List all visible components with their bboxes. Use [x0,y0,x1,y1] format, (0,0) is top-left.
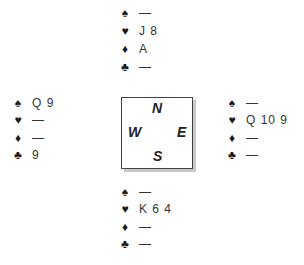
heart-icon: ♥ [226,112,238,129]
west-spades: Q 9 [32,95,54,112]
east-diamonds: — [246,130,259,147]
south-clubs: — [139,236,152,253]
spade-icon: ♠ [119,5,131,22]
compass-west: W [128,124,141,140]
club-icon: ♣ [119,59,131,76]
west-clubs: 9 [32,147,40,164]
south-diamonds: — [139,219,152,236]
heart-icon: ♥ [12,112,24,129]
west-diamonds: — [32,130,45,147]
east-hearts: Q 10 9 [246,112,288,129]
south-hearts: K 6 4 [139,201,172,218]
compass-east: E [177,124,186,140]
heart-icon: ♥ [119,201,131,218]
club-icon: ♣ [12,147,24,164]
compass-south: S [153,148,162,164]
spade-icon: ♠ [226,95,238,112]
spade-icon: ♠ [119,184,131,201]
north-spades: — [139,5,152,22]
compass-north: N [152,100,162,116]
east-spades: — [246,95,259,112]
club-icon: ♣ [119,236,131,253]
heart-icon: ♥ [119,23,131,40]
spade-icon: ♠ [12,95,24,112]
south-spades: — [139,184,152,201]
diamond-icon: ♦ [119,219,131,236]
diamond-icon: ♦ [226,130,238,147]
club-icon: ♣ [226,147,238,164]
diamond-icon: ♦ [119,41,131,58]
east-clubs: — [246,147,259,164]
north-diamonds: A [139,41,148,58]
north-clubs: — [139,59,152,76]
north-hearts: J 8 [139,23,158,40]
compass-box: N W E S [121,97,193,169]
diamond-icon: ♦ [12,130,24,147]
west-hearts: — [32,112,45,129]
